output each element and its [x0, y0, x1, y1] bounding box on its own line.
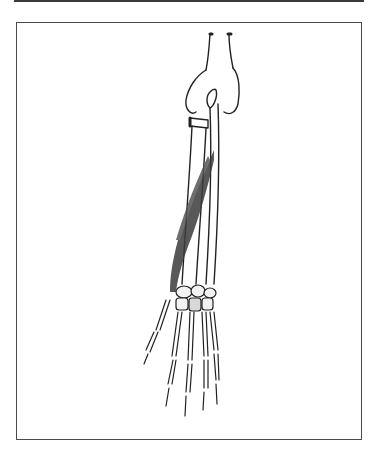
ring-finger	[202, 312, 208, 410]
little-finger	[210, 312, 219, 404]
carpal-bones	[176, 285, 216, 311]
forearm-illustration	[0, 0, 381, 460]
radius-head	[190, 118, 208, 128]
middle-finger	[185, 312, 194, 416]
humerus-shaft	[206, 34, 210, 70]
ulna-shaft	[206, 108, 211, 284]
index-finger	[166, 312, 182, 406]
hand-bones	[144, 300, 219, 416]
thumb	[144, 300, 170, 364]
ulna-proximal	[207, 89, 217, 108]
